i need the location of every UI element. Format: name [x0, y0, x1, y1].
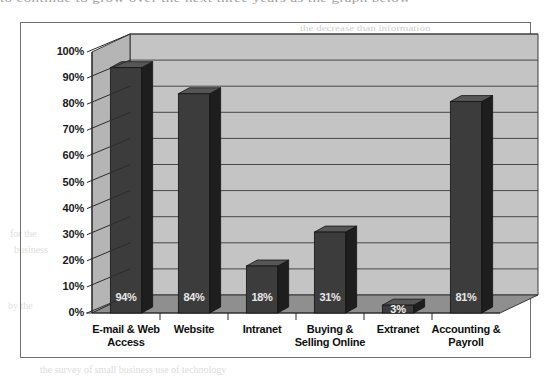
y-axis-tick-label: 50% [36, 176, 84, 188]
y-axis-tick-label: 10% [36, 280, 84, 292]
x-axis-category-label: E-mail & WebAccess [78, 323, 174, 349]
y-axis-tick-label: 40% [36, 202, 84, 214]
y-axis-tick-label: 30% [36, 228, 84, 240]
y-axis-tick-label: 90% [36, 71, 84, 83]
bar-value-label: 18% [242, 291, 282, 303]
y-axis-tick-label: 60% [36, 149, 84, 161]
category-label-line: Access [78, 336, 174, 349]
category-label-line: E-mail & Web [78, 323, 174, 336]
y-axis-tick-label: 100% [36, 45, 84, 57]
category-label-line: Selling Online [282, 336, 378, 349]
bar-value-label: 84% [174, 291, 214, 303]
y-axis-tick-label: 0% [36, 306, 84, 318]
category-label-line: Payroll [418, 336, 514, 349]
y-axis-tick-label: 70% [36, 123, 84, 135]
y-axis-tick-label: 80% [36, 97, 84, 109]
bar-value-label: 3% [378, 303, 418, 315]
y-axis-tick-label: 20% [36, 254, 84, 266]
bar-value-label: 94% [106, 291, 146, 303]
bar-value-label: 31% [310, 291, 350, 303]
bar-value-label: 81% [446, 291, 486, 303]
